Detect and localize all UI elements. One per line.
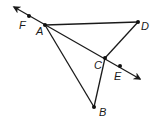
label-f: F [19,19,27,31]
segment-dc [105,22,138,58]
label-e: E [114,70,122,82]
point-b [92,105,96,109]
geometry-diagram: A B C D E F [0,0,155,122]
point-f [27,14,31,18]
point-e [118,64,122,68]
label-a: A [35,25,43,37]
point-c [103,56,107,60]
point-a [43,23,47,27]
point-d [136,20,140,24]
label-c: C [94,59,102,71]
label-b: B [99,106,106,118]
label-d: D [141,20,149,32]
segment-ad [45,22,138,25]
line-fe [14,7,140,79]
segment-ab [45,25,94,107]
